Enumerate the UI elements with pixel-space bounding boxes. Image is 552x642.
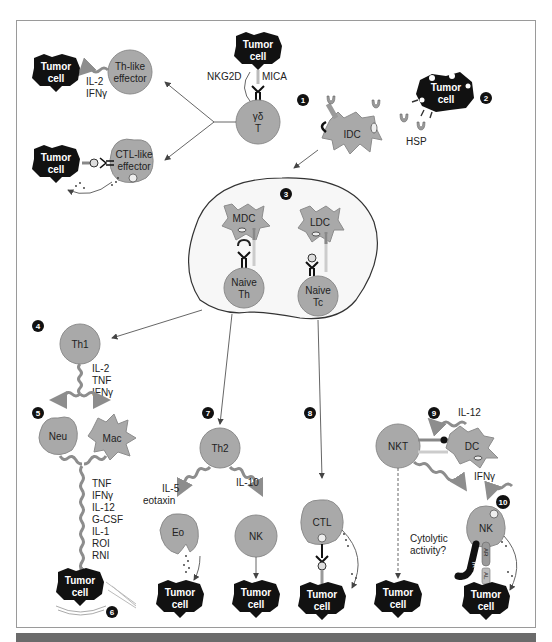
neu-cell: Neu xyxy=(39,417,77,455)
th-like-cytokine-ifng: IFNγ xyxy=(86,88,107,99)
panel-7: 7 Th2 IL-5 eotaxin IL-10 Eo Tumor cell N… xyxy=(143,407,280,618)
svg-text:IR: IR xyxy=(471,561,478,569)
cytolytic-activity-label-1: Cytolytic xyxy=(410,533,448,544)
panel-4-5-6: 4 Th1 IL-2 TNF IFNγ 5 Neu Mac TNF IFNγ I… xyxy=(32,320,136,618)
tumor-cell-nkt: Tumor cell xyxy=(374,580,422,618)
ar-receptor: AR xyxy=(482,542,490,566)
th2-cytokine-eotaxin: eotaxin xyxy=(143,495,175,506)
nkg2d-label: NKG2D xyxy=(207,71,241,82)
svg-text:Tumor: Tumor xyxy=(243,39,273,50)
svg-text:effector: effector xyxy=(117,161,151,172)
idc-cell: IDC xyxy=(322,104,382,154)
ir-receptor: IR xyxy=(458,544,478,576)
ifng-label: IFNγ xyxy=(474,471,495,482)
svg-text:Tumor: Tumor xyxy=(383,587,413,598)
svg-text:CTL-like: CTL-like xyxy=(115,149,153,160)
effector-tnf: TNF xyxy=(92,478,111,489)
svg-text:NK: NK xyxy=(479,523,493,534)
svg-text:Neu: Neu xyxy=(49,431,67,442)
svg-text:10: 10 xyxy=(499,498,508,507)
svg-text:γδ: γδ xyxy=(253,111,264,122)
tumor-cell-gd: Tumor cell xyxy=(234,32,282,70)
svg-text:Tumor: Tumor xyxy=(41,152,71,163)
badge-5: 5 xyxy=(32,407,44,419)
svg-text:3: 3 xyxy=(284,190,289,199)
svg-text:cell: cell xyxy=(478,601,495,612)
th-like-cytokine-il2: IL-2 xyxy=(86,76,104,87)
svg-text:Tc: Tc xyxy=(313,297,323,308)
svg-text:cell: cell xyxy=(390,599,407,610)
badge-10: 10 xyxy=(496,495,510,509)
effector-il1: IL-1 xyxy=(92,526,110,537)
naive-tc-cell: Naive Tc xyxy=(298,276,338,316)
svg-text:DC: DC xyxy=(465,441,479,452)
tumor-cell-nk: Tumor cell xyxy=(232,580,280,618)
effector-ifng: IFNγ xyxy=(92,490,113,501)
svg-text:AR: AR xyxy=(483,548,489,557)
svg-text:4: 4 xyxy=(36,322,41,331)
th2-cell: Th2 xyxy=(200,428,240,468)
nk-cell-th2: NK xyxy=(235,515,277,557)
tumor-cell-th-like: Tumor cell xyxy=(32,54,80,92)
svg-text:T: T xyxy=(255,123,261,134)
svg-text:Naive: Naive xyxy=(231,277,257,288)
svg-text:LDC: LDC xyxy=(310,217,330,228)
panel-2: IDC Tumor cell HSP 2 xyxy=(294,72,492,168)
nkt-cell: NKT xyxy=(376,424,420,468)
panel-8: 8 CTL Tumor cell xyxy=(298,407,358,620)
th1-cytokine-il2: IL-2 xyxy=(92,363,110,374)
hsp-label: HSP xyxy=(406,136,427,147)
effector-gcsf: G-CSF xyxy=(92,514,123,525)
badge-3: 3 xyxy=(280,188,292,200)
svg-text:effector: effector xyxy=(113,73,147,84)
svg-text:CTL: CTL xyxy=(313,517,332,528)
tumor-cell-ctl: Tumor cell xyxy=(298,582,346,620)
ctl-cell: CTL xyxy=(301,500,343,545)
svg-text:2: 2 xyxy=(484,94,489,103)
svg-text:cell: cell xyxy=(250,51,267,62)
badge-2: 2 xyxy=(480,92,492,104)
badge-4: 4 xyxy=(32,320,44,332)
svg-text:Tumor: Tumor xyxy=(471,589,501,600)
il12-label: IL-12 xyxy=(458,407,481,418)
svg-text:cell: cell xyxy=(48,164,65,175)
cytolytic-activity-label-2: activity? xyxy=(410,545,447,556)
al-ligand: AL xyxy=(482,568,490,584)
svg-text:6: 6 xyxy=(110,608,115,617)
svg-text:Th1: Th1 xyxy=(71,339,89,350)
ctl-like-effector-cell: CTL-like effector xyxy=(110,139,153,182)
svg-text:MDC: MDC xyxy=(233,213,256,224)
badge-6: 6 xyxy=(106,606,118,618)
svg-text:cell: cell xyxy=(248,599,265,610)
bottom-bar xyxy=(16,633,536,642)
panel-9-10: 9 IL-12 NKT DC IFNγ 10 Cytolytic activit… xyxy=(374,407,517,620)
svg-text:5: 5 xyxy=(36,409,41,418)
svg-text:Th-like: Th-like xyxy=(115,61,145,72)
svg-text:Th: Th xyxy=(238,289,250,300)
svg-text:1: 1 xyxy=(301,96,306,105)
tumor-cell-ctl-like: Tumor cell xyxy=(32,145,80,183)
svg-text:cell: cell xyxy=(314,601,331,612)
naive-th-cell: Naive Th xyxy=(224,268,264,308)
effector-rni: RNI xyxy=(92,550,109,561)
svg-text:Eo: Eo xyxy=(172,527,185,538)
svg-text:Th2: Th2 xyxy=(211,443,229,454)
badge-7: 7 xyxy=(202,407,214,419)
svg-text:7: 7 xyxy=(206,409,211,418)
svg-text:cell: cell xyxy=(48,73,65,84)
svg-text:Tumor: Tumor xyxy=(41,61,71,72)
tumor-cell-nk-10: Tumor cell xyxy=(462,582,510,620)
panel-1: Tumor cell NKG2D MICA γδ T 1 Th-like eff… xyxy=(32,32,309,194)
tumor-cell-macrophage: Tumor cell xyxy=(56,568,104,606)
mac-cell: Mac xyxy=(88,414,136,460)
svg-text:Mac: Mac xyxy=(103,433,122,444)
svg-text:Tumor: Tumor xyxy=(165,587,195,598)
dc-cell: DC xyxy=(446,426,498,468)
svg-text:Tumor: Tumor xyxy=(65,575,95,586)
svg-text:AL: AL xyxy=(483,572,489,580)
th2-cytokine-il10: IL-10 xyxy=(236,477,259,488)
nk-cell-10: NK xyxy=(467,506,505,547)
svg-text:8: 8 xyxy=(308,409,313,418)
tumor-cell-eo: Tumor cell xyxy=(156,580,204,618)
th2-cytokine-il5: IL-5 xyxy=(162,483,180,494)
